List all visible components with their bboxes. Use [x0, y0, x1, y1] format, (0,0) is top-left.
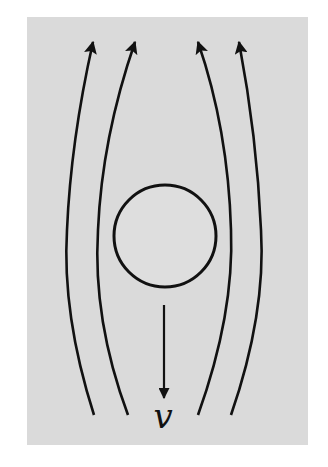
velocity-label: v	[153, 396, 172, 436]
flow-diagram: v	[0, 0, 328, 467]
flow-diagram-canvas: v	[0, 0, 328, 467]
sphere	[114, 185, 216, 287]
